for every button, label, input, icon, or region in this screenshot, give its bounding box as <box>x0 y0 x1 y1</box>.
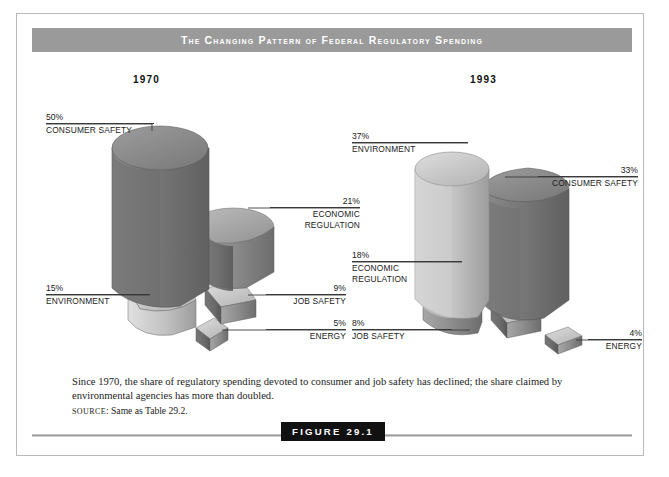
callout-job-safety-1993: 8% JOB SAFETY <box>352 318 452 341</box>
callout-percent: 33% <box>538 165 638 176</box>
callout-percent: 4% <box>588 328 642 339</box>
callout-name-line2: REGULATION <box>352 273 462 284</box>
callout-name: JOB SAFETY <box>352 330 452 341</box>
callout-name-line2: REGULATION <box>270 219 360 230</box>
callout-name: ENERGY <box>588 340 642 351</box>
callout-environment-1970: 15% ENVIRONMENT <box>46 283 150 306</box>
callout-energy-1970: 5% ENERGY <box>266 318 346 341</box>
callout-name-line1: ECONOMIC <box>352 262 462 273</box>
figure-caption: Since 1970, the share of regulatory spen… <box>72 375 608 402</box>
callout-name: CONSUMER SAFETY <box>46 124 154 135</box>
callout-consumer-safety-1993: 33% CONSUMER SAFETY <box>538 165 638 188</box>
slice-consumer-safety-1993 <box>482 168 569 320</box>
slice-consumer-safety-1970 <box>112 126 209 307</box>
callout-environment-1993: 37% ENVIRONMENT <box>352 131 468 154</box>
callout-energy-1993: 4% ENERGY <box>588 328 642 351</box>
callout-consumer-safety-1970: 50% CONSUMER SAFETY <box>46 112 154 135</box>
slice-energy-1993 <box>545 327 582 354</box>
callout-name: JOB SAFETY <box>266 295 346 306</box>
callout-economic-regulation-1970: 21% ECONOMIC REGULATION <box>270 196 360 230</box>
callout-percent: 15% <box>46 283 150 294</box>
callout-name: ENERGY <box>266 330 346 341</box>
figure-source: SOURCE: Same as Table 29.2. <box>72 405 472 416</box>
source-value: : Same as Table 29.2. <box>106 405 188 416</box>
callout-job-safety-1970: 9% JOB SAFETY <box>266 283 346 306</box>
callout-percent: 18% <box>352 250 462 261</box>
source-label: SOURCE <box>72 407 106 416</box>
callout-percent: 37% <box>352 131 468 142</box>
slice-environment-1993 <box>415 152 489 319</box>
figure-29-1: The Changing Pattern of Federal Regulato… <box>0 0 669 477</box>
callout-percent: 50% <box>46 112 154 123</box>
callout-percent: 5% <box>266 318 346 329</box>
callout-economic-regulation-1993: 18% ECONOMIC REGULATION <box>352 250 462 284</box>
callout-name: ENVIRONMENT <box>46 295 150 306</box>
callout-name-line1: ECONOMIC <box>270 208 360 219</box>
callout-percent: 21% <box>270 196 360 207</box>
callout-percent: 8% <box>352 318 452 329</box>
pie-1970 <box>112 126 274 351</box>
callout-percent: 9% <box>266 283 346 294</box>
callout-name: ENVIRONMENT <box>352 143 468 154</box>
callout-name: CONSUMER SAFETY <box>538 177 638 188</box>
figure-number-badge: FIGURE 29.1 <box>281 422 385 441</box>
